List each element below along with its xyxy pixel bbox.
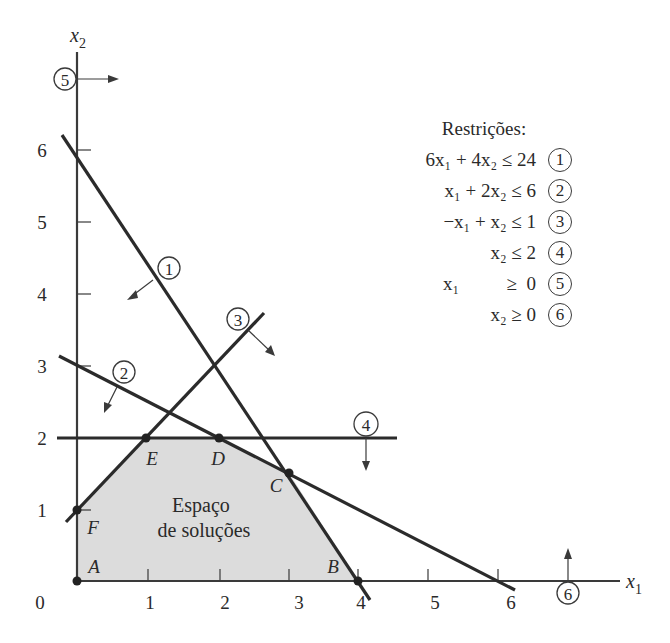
x-tick-label: 2 [220,592,230,613]
arrow-2 [104,387,117,413]
vertex-c-dot [285,469,294,478]
constraint-marker-6: 6 [557,582,579,604]
constraint-expr: x₂ ≥ 0 [490,304,536,326]
x-tick-label: 1 [145,592,155,613]
constraint-marker-4: 4 [354,412,378,436]
vertex-f-label: F [86,517,99,538]
vertex-e-dot [142,434,151,443]
constraint-expr: x₁ ≥ 0 [443,273,536,295]
x1-axis-title: x1 [625,570,642,597]
arrow-4 [362,438,370,471]
vertex-f-dot [73,506,82,515]
legend-row-1: 6x₁ + 4x₂ ≤ 24 1 [372,144,572,175]
vertex-d-label: D [210,448,225,469]
constraint-number-icon: 6 [548,303,572,327]
constraint-marker-2: 2 [113,361,135,383]
constraint-expr: 6x₁ + 4x₂ ≤ 24 [426,149,536,171]
svg-text:2: 2 [120,364,129,383]
constraint-expr: −x₁ + x₂ ≤ 1 [443,211,536,233]
svg-text:1: 1 [165,260,174,279]
y-ticks [77,150,91,510]
vertex-a-label: A [86,556,100,577]
y-tick-label: 4 [37,284,47,305]
constraint-marker-5: 5 [54,68,76,90]
region-label-line2: de soluções [158,519,251,542]
svg-text:6: 6 [564,585,573,604]
legend-row-3: −x₁ + x₂ ≤ 1 3 [372,206,572,237]
legend-title: Restrições: [396,114,572,144]
vertex-a-dot [73,577,82,586]
legend-row-4: x₂ ≤ 2 4 [372,237,572,268]
constraint-number-icon: 1 [548,148,572,172]
x-tick-label: 6 [506,592,516,613]
vertex-c-label: C [270,475,283,496]
constraint-number-icon: 5 [548,272,572,296]
constraint-number-icon: 2 [548,179,572,203]
constraint-number-icon: 3 [548,210,572,234]
constraint-expr: x₁ + 2x₂ ≤ 6 [445,180,536,202]
svg-text:3: 3 [234,311,243,330]
arrow-1 [127,280,153,300]
x2-axis-title: x2 [69,24,86,51]
vertex-b-label: B [327,556,339,577]
y-tick-label: 1 [37,500,47,521]
constraint-marker-3: 3 [227,308,249,330]
origin-label: 0 [35,592,45,613]
legend-row-6: x₂ ≥ 0 6 [372,299,572,330]
y-tick-label: 3 [37,356,47,377]
arrow-6 [564,548,572,581]
constraint-marker-1: 1 [158,257,180,279]
arrow-3 [248,330,275,356]
x-tick-label: 3 [294,592,304,613]
constraints-legend: Restrições: 6x₁ + 4x₂ ≤ 24 1 x₁ + 2x₂ ≤ … [372,114,572,330]
svg-text:5: 5 [61,71,70,90]
vertex-e-label: E [145,448,158,469]
arrow-5 [77,75,119,83]
vertex-b-dot [354,577,363,586]
y-tick-label: 6 [37,140,47,161]
constraint-expr: x₂ ≤ 2 [490,242,536,264]
legend-row-5: x₁ ≥ 0 5 [372,268,572,299]
constraint-number-icon: 4 [548,241,572,265]
legend-row-2: x₁ + 2x₂ ≤ 6 2 [372,175,572,206]
region-label-line1: Espaço [172,494,230,517]
svg-text:4: 4 [362,416,371,435]
y-tick-label: 2 [37,428,47,449]
x-tick-label: 5 [430,592,440,613]
vertex-d-dot [215,434,224,443]
y-tick-label: 5 [37,212,47,233]
